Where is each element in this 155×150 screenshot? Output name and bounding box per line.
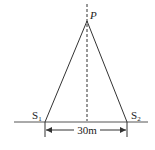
source1-subscript: 1 [38,115,42,123]
two-source-interference-diagram: P S1 S2 30m [0,0,155,150]
source1-label: S1 [32,109,42,123]
line-s2-to-p [87,21,127,122]
line-s1-to-p [45,21,87,122]
diagram-svg: P S1 S2 30m [0,0,155,150]
source2-label: S2 [131,109,141,123]
distance-label: 30m [77,124,97,136]
apex-label-p: P [89,9,97,21]
source2-subscript: 2 [137,115,141,123]
